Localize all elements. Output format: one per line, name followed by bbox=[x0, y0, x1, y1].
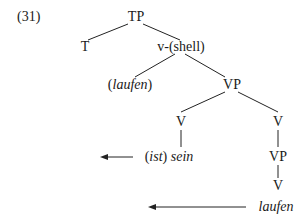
sein-word: sein bbox=[171, 149, 194, 164]
node-laufen-trace: (laufen) bbox=[108, 78, 152, 92]
node-ist-sein: (ist) sein bbox=[145, 150, 194, 164]
branch-vshell-laufen bbox=[135, 54, 175, 77]
branch-vp-vright bbox=[238, 92, 278, 112]
branch-vshell-vp bbox=[185, 54, 225, 77]
node-t: T bbox=[81, 40, 90, 54]
example-number: (31) bbox=[17, 10, 40, 24]
node-v-lower: V bbox=[273, 179, 283, 193]
paren-close: ) bbox=[163, 149, 168, 164]
node-v-right: V bbox=[273, 115, 283, 129]
ist-word: ist bbox=[149, 149, 162, 164]
node-laufen-leaf: laufen bbox=[259, 200, 294, 214]
arrow-sein bbox=[100, 154, 133, 160]
node-v-left: V bbox=[176, 115, 186, 129]
node-vp-lower: VP bbox=[269, 150, 287, 164]
paren-close: ) bbox=[148, 77, 153, 92]
node-vp-upper: VP bbox=[223, 78, 241, 92]
branch-vp-vleft bbox=[181, 92, 225, 112]
node-vshell: v-(shell) bbox=[157, 40, 204, 54]
laufen-trace-word: laufen bbox=[113, 77, 148, 92]
node-tp: TP bbox=[128, 10, 144, 24]
branch-tp-vshell bbox=[143, 24, 180, 40]
arrow-laufen bbox=[148, 204, 246, 210]
branch-tp-t bbox=[88, 24, 128, 40]
tree-branches bbox=[0, 0, 303, 218]
